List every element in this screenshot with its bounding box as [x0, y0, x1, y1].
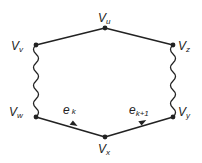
edge-z-y-wavy [171, 45, 176, 117]
node-y [171, 115, 176, 120]
edge-v-w-wavy [34, 45, 39, 117]
label-node-x: Vx [98, 142, 111, 157]
label-node-w: Vw [9, 105, 24, 120]
arrow-head-ek [70, 120, 79, 127]
edge-v-u [36, 28, 105, 45]
label-node-y: Vy [178, 105, 191, 120]
edge-x-y [105, 117, 173, 137]
label-node-z: Vz [178, 39, 190, 54]
node-z [171, 43, 176, 48]
label-edge-ek: ek [63, 103, 77, 117]
node-w [34, 115, 39, 120]
node-u [103, 26, 108, 31]
node-v [34, 43, 39, 48]
edge-u-z [105, 28, 173, 45]
edge-w-x [36, 117, 105, 137]
label-node-v: Vv [11, 39, 24, 54]
node-x [103, 135, 108, 140]
label-edge-ek1: ek+1 [129, 103, 149, 118]
label-node-u: Vu [98, 11, 111, 26]
graph-diagram: Vu Vv Vz Vw Vy Vx ek ek+1 [0, 0, 202, 163]
